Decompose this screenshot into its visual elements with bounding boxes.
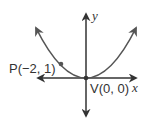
x-axis-label: x (131, 80, 138, 95)
point-p-label: P(−2, 1) (9, 61, 56, 76)
point-p (59, 62, 64, 67)
point-v-label: V(0, 0) (90, 81, 129, 96)
y-axis-label: y (90, 8, 98, 23)
parabola-diagram: P(−2, 1) V(0, 0) y x (0, 0, 148, 123)
point-v (84, 76, 89, 81)
